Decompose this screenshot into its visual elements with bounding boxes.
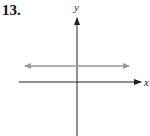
y-axis-label: y <box>73 1 79 13</box>
x-axis-label: x <box>143 76 149 88</box>
coordinate-graph: y x <box>0 0 150 136</box>
